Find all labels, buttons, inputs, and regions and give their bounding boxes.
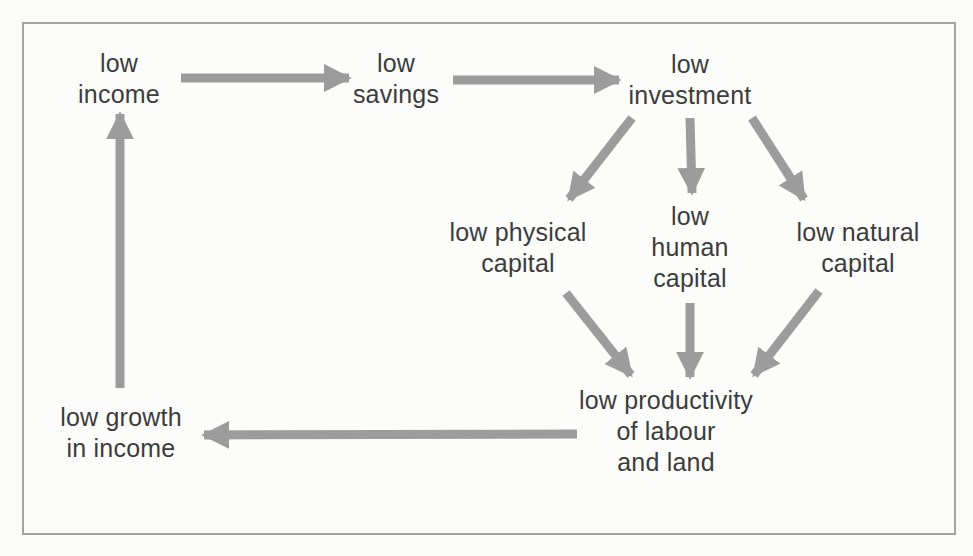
node-label-line: capital [481, 248, 555, 279]
node-label-line: low productivity [579, 385, 753, 416]
node-low-productivity: low productivity of labour and land [579, 385, 753, 478]
node-label-line: low [671, 201, 709, 232]
node-label-line: low natural [796, 217, 919, 248]
node-low-income: low income [78, 48, 160, 110]
node-low-physical-capital: low physical capital [449, 217, 586, 279]
node-label-line: human [651, 232, 728, 263]
node-label-line: capital [821, 248, 895, 279]
node-label-line: income [78, 79, 160, 110]
node-label-line: and land [617, 447, 715, 478]
node-label-line: investment [629, 80, 752, 111]
node-low-natural-capital: low natural capital [796, 217, 919, 279]
node-label-line: low [100, 48, 138, 79]
node-label-line: in income [67, 433, 176, 464]
node-label-line: low [671, 49, 709, 80]
node-label-line: savings [353, 79, 439, 110]
node-label-line: low physical [449, 217, 586, 248]
node-label-line: of labour [616, 416, 715, 447]
node-label-line: low growth [60, 402, 182, 433]
node-low-savings: low savings [353, 48, 439, 110]
node-low-investment: low investment [629, 49, 752, 111]
node-low-growth-in-income: low growth in income [60, 402, 182, 464]
diagram-canvas: low income low savings low investment lo… [0, 0, 973, 556]
node-label-line: low [377, 48, 415, 79]
node-low-human-capital: low human capital [651, 201, 728, 294]
node-label-line: capital [653, 263, 727, 294]
